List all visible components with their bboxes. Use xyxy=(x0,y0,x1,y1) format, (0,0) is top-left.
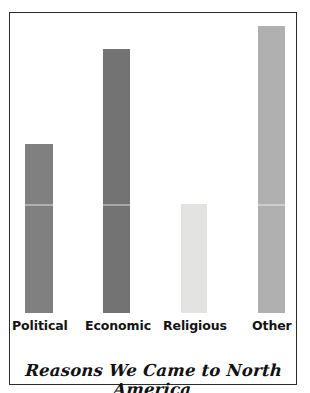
chart-title: Reasons We Came to North America xyxy=(9,361,298,393)
bar-religious xyxy=(181,204,207,313)
bar-seam xyxy=(103,204,130,206)
chart-figure: Political Economic Religious Other Reaso… xyxy=(0,0,310,393)
axis-label-political: Political xyxy=(12,318,68,333)
bar-economic xyxy=(103,49,130,313)
category-axis: Political Economic Religious Other xyxy=(10,318,296,344)
plot-area xyxy=(10,13,296,313)
axis-label-other: Other xyxy=(252,318,292,333)
bar-other xyxy=(258,26,285,313)
bar-seam xyxy=(258,204,285,206)
bar-seam xyxy=(25,204,53,206)
bar-political xyxy=(25,144,53,313)
axis-label-economic: Economic xyxy=(85,318,151,333)
chart-frame: Political Economic Religious Other Reaso… xyxy=(9,12,297,385)
axis-label-religious: Religious xyxy=(163,318,227,333)
